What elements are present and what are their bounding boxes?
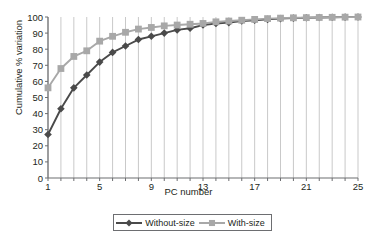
legend-item-with-size: With-size [199, 217, 269, 229]
chart-legend: Without-size With-size [113, 214, 272, 231]
data-point-marker [303, 14, 310, 21]
data-point-marker [213, 18, 220, 25]
data-point-marker [161, 22, 168, 29]
data-point-marker [251, 16, 258, 23]
data-point-marker [264, 15, 271, 22]
data-point-marker [316, 14, 323, 21]
legend-marker-diamond-icon [116, 217, 142, 229]
data-point-marker [70, 53, 77, 60]
chart-container: Cumulative % variation PC number 0102030… [0, 0, 377, 246]
data-point-marker [160, 29, 168, 37]
data-point-marker [135, 36, 143, 44]
legend-marker-square-icon [199, 217, 225, 229]
data-point-marker [58, 65, 65, 72]
square-icon [208, 219, 216, 227]
data-point-marker [83, 47, 90, 54]
plot-area [0, 0, 377, 246]
legend-label-with-size: With-size [225, 218, 269, 228]
data-point-marker [277, 15, 284, 22]
data-point-marker [187, 21, 194, 28]
data-point-marker [355, 14, 362, 21]
data-point-marker [238, 17, 245, 24]
data-point-marker [135, 26, 142, 33]
diamond-icon [125, 219, 133, 227]
data-point-marker [342, 14, 349, 21]
data-point-marker [225, 18, 232, 25]
data-point-marker [122, 42, 130, 50]
data-point-marker [96, 38, 103, 45]
data-point-marker [174, 22, 181, 29]
data-point-marker [122, 29, 129, 36]
data-point-marker [148, 24, 155, 31]
data-point-marker [148, 33, 156, 41]
data-point-marker [329, 14, 336, 21]
data-point-marker [109, 33, 116, 40]
data-point-marker [200, 20, 207, 27]
data-point-marker [290, 14, 297, 21]
legend-label-without-size: Without-size [142, 218, 199, 228]
data-point-marker [44, 131, 52, 139]
legend-item-without-size: Without-size [116, 217, 199, 229]
data-point-marker [45, 84, 52, 91]
